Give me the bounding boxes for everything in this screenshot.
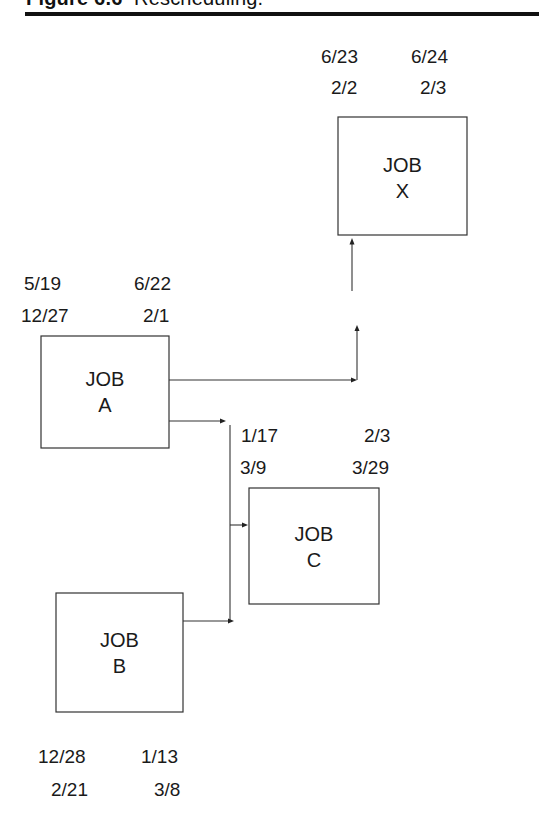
- arrowhead-icon: [351, 378, 357, 383]
- arrowhead-icon: [355, 325, 360, 331]
- job-a-label: JOB A: [41, 366, 169, 418]
- arrowhead-icon: [220, 419, 226, 424]
- arrowhead-icon: [242, 523, 248, 528]
- job-a-date-top-right: 6/22: [134, 273, 171, 295]
- job-b-label: JOB B: [56, 627, 183, 679]
- job-b-label-line2: B: [56, 653, 183, 679]
- job-x-label-line2: X: [338, 178, 467, 204]
- job-x-date-top-left: 6/23: [321, 46, 358, 68]
- job-x-label-line1: JOB: [338, 152, 467, 178]
- job-c-label: JOB C: [249, 521, 379, 573]
- job-c-date-top-right: 2/3: [364, 425, 390, 447]
- edge-b-to-c: [183, 619, 234, 624]
- arrowhead-icon: [228, 619, 234, 624]
- job-c-label-line2: C: [249, 547, 379, 573]
- job-c-date-top-left: 1/17: [241, 425, 278, 447]
- job-a-date-bottom-right: 2/1: [143, 305, 169, 327]
- job-b-date-bottom-right: 3/8: [154, 779, 180, 801]
- job-a-date-bottom-left: 12/27: [21, 305, 69, 327]
- job-x-date-bottom-left: 2/2: [331, 77, 357, 99]
- job-a-label-line2: A: [41, 392, 169, 418]
- job-b-date-top-right: 1/13: [141, 746, 178, 768]
- job-x-date-bottom-right: 2/3: [420, 77, 446, 99]
- job-c-date-bottom-right: 3/29: [352, 457, 389, 479]
- job-x-date-top-right: 6/24: [411, 46, 448, 68]
- job-a-label-line1: JOB: [41, 366, 169, 392]
- job-c-label-line1: JOB: [249, 521, 379, 547]
- job-c-date-bottom-left: 3/9: [240, 457, 266, 479]
- job-b-date-top-left: 12/28: [38, 746, 86, 768]
- edge-a-to-x: [169, 238, 360, 383]
- job-b-date-bottom-left: 2/21: [51, 779, 88, 801]
- job-a-date-top-left: 5/19: [24, 273, 61, 295]
- job-x-label: JOB X: [338, 152, 467, 204]
- job-b-label-line1: JOB: [56, 627, 183, 653]
- arrowhead-icon: [350, 238, 355, 245]
- edge-a-to-c: [169, 419, 248, 622]
